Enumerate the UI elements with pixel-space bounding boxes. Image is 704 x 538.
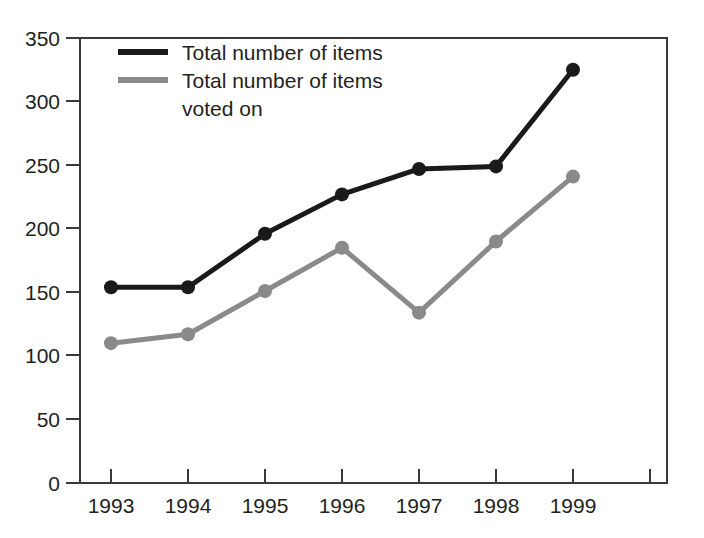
data-point	[258, 284, 272, 298]
data-point	[181, 280, 195, 294]
y-axis-ticks	[66, 38, 80, 483]
x-axis-label-1998: 1998	[473, 494, 520, 517]
y-axis-label-100: 100	[25, 344, 60, 367]
y-axis-label-350: 350	[25, 27, 60, 50]
data-point	[412, 306, 426, 320]
y-axis-label-200: 200	[25, 217, 60, 240]
legend-label-total-items-voted-on-line1: Total number of items	[182, 69, 383, 92]
x-axis-label-1995: 1995	[242, 494, 289, 517]
data-point	[181, 327, 195, 341]
legend-label-total-items: Total number of items	[182, 41, 383, 64]
y-axis-label-50: 50	[37, 408, 60, 431]
x-axis-label-1994: 1994	[165, 494, 212, 517]
data-point	[566, 170, 580, 184]
plot-frame	[80, 38, 667, 483]
data-point	[566, 63, 580, 77]
data-point	[335, 187, 349, 201]
x-axis-label-1997: 1997	[396, 494, 443, 517]
chart-container: 350 300 250 200 150 100 50 0 1993 1994 1…	[0, 0, 704, 538]
data-point	[489, 159, 503, 173]
series-line	[111, 177, 573, 344]
plot-border	[80, 38, 667, 483]
x-axis-label-1993: 1993	[88, 494, 135, 517]
y-axis-label-0: 0	[48, 472, 60, 495]
legend-label-total-items-voted-on-line2: voted on	[182, 97, 263, 120]
data-point	[258, 227, 272, 241]
chart-legend: Total number of items Total number of it…	[118, 41, 383, 120]
data-point	[489, 234, 503, 248]
data-point	[335, 241, 349, 255]
y-axis-label-150: 150	[25, 281, 60, 304]
data-point	[412, 162, 426, 176]
y-axis-labels: 350 300 250 200 150 100 50 0	[25, 27, 60, 495]
x-axis-label-1999: 1999	[550, 494, 597, 517]
data-point	[104, 280, 118, 294]
x-axis-labels: 1993 1994 1995 1996 1997 1998 1999	[88, 494, 597, 517]
line-chart: 350 300 250 200 150 100 50 0 1993 1994 1…	[0, 0, 704, 538]
series-total-items	[104, 63, 580, 294]
x-axis-ticks	[111, 469, 650, 483]
data-series-layer	[104, 63, 580, 350]
y-axis-label-300: 300	[25, 90, 60, 113]
y-axis-label-250: 250	[25, 154, 60, 177]
data-point	[104, 336, 118, 350]
x-axis-label-1996: 1996	[319, 494, 366, 517]
